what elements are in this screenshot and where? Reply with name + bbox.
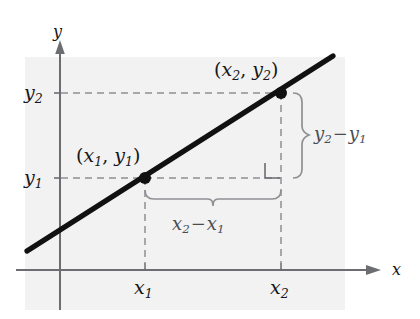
run-label-first-main: x <box>172 213 182 234</box>
point-1-label-close: ) <box>133 144 140 166</box>
run-label-operator: − <box>190 213 207 234</box>
x-tick-label-x1-sub: 1 <box>145 286 153 301</box>
diagram-canvas <box>0 0 420 319</box>
run-label-second-sub: 1 <box>217 222 225 236</box>
x-tick-label-x1: x1 <box>134 278 153 300</box>
rise-label-second-main: y <box>349 123 359 144</box>
point-2-label-x-sub: 2 <box>232 68 240 83</box>
point-2-label-comma: , <box>240 58 252 80</box>
point-1-label-x-main: x <box>83 144 94 166</box>
x-axis-label: x <box>392 262 401 278</box>
point-2-label-y-main: y <box>252 58 263 80</box>
point-1-label-y-sub: 1 <box>125 154 133 169</box>
x-tick-label-x2-main: x <box>270 276 281 298</box>
rise-label-operator: − <box>332 123 349 144</box>
plot-area-background <box>25 57 345 310</box>
run-label-first-sub: 2 <box>182 222 190 236</box>
point-1-marker <box>139 172 151 184</box>
point-1-label: (x1, y1) <box>76 146 140 168</box>
run-label-second-main: x <box>207 213 217 234</box>
point-2-label-y-sub: 2 <box>263 68 271 83</box>
point-2-label-close: ) <box>271 58 278 80</box>
x-tick-label-x2: x2 <box>270 278 289 300</box>
y-axis-label: y <box>53 24 62 40</box>
point-1-label-x-sub: 1 <box>94 154 102 169</box>
point-2-marker <box>275 87 287 99</box>
rise-label-second-sub: 1 <box>359 132 367 146</box>
y-tick-label-y1-main: y <box>24 166 35 188</box>
y-tick-label-y2-sub: 2 <box>35 91 43 106</box>
slope-diagram-figure: y x y2 y1 x1 x2 (x1, y1) (x2, y2) x2−x1 … <box>0 0 420 319</box>
y-tick-label-y2-main: y <box>24 81 35 103</box>
rise-label: y2−y1 <box>314 125 367 146</box>
point-1-label-comma: , <box>102 144 114 166</box>
rise-label-first-sub: 2 <box>324 132 332 146</box>
x-tick-label-x2-sub: 2 <box>281 286 289 301</box>
point-1-label-y-main: y <box>114 144 125 166</box>
rise-label-first-main: y <box>314 123 324 144</box>
y-tick-label-y1: y1 <box>24 168 43 190</box>
y-tick-label-y2: y2 <box>24 83 43 105</box>
y-tick-label-y1-sub: 1 <box>35 176 43 191</box>
x-tick-label-x1-main: x <box>134 276 145 298</box>
run-label: x2−x1 <box>172 215 225 236</box>
point-2-label-x-main: x <box>221 58 232 80</box>
point-2-label: (x2, y2) <box>214 60 278 82</box>
